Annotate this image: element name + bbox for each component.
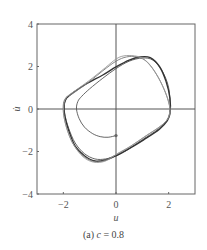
caption-prefix: (a) xyxy=(83,229,97,240)
start-point-marker xyxy=(114,134,117,137)
caption-suffix: = 0.8 xyxy=(101,229,124,240)
x-tick-label: −2 xyxy=(58,199,69,210)
figure-caption: (a) c = 0.8 xyxy=(0,229,207,240)
x-tick-label: 2 xyxy=(166,199,171,210)
y-tick-label: −2 xyxy=(22,146,33,157)
y-axis-label: u̇ xyxy=(11,107,22,112)
x-tick-label: 0 xyxy=(114,199,119,210)
y-tick-label: 0 xyxy=(28,104,33,115)
y-tick-label: 4 xyxy=(28,19,33,30)
x-axis-label: u xyxy=(114,212,119,223)
y-tick-label: 2 xyxy=(28,61,33,72)
y-tick-label: −4 xyxy=(22,189,33,200)
phase-portrait-chart: −202−4−2024 u u̇ xyxy=(0,0,207,250)
